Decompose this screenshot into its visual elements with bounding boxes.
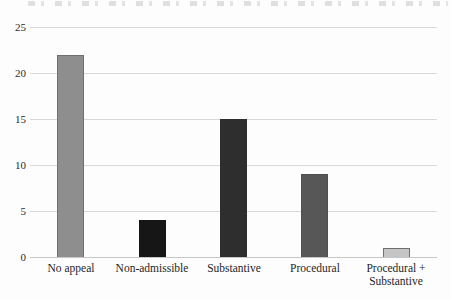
x-category-label: Procedural + Substantive	[353, 262, 439, 288]
x-category-label: Non-admissible	[109, 262, 195, 275]
y-tick-label: 5	[4, 206, 26, 217]
gridline	[30, 27, 437, 28]
x-category-label: Procedural	[272, 262, 358, 275]
bar-chart: 0510152025No appealNon-admissibleSubstan…	[0, 0, 451, 300]
x-category-label: Substantive	[191, 262, 277, 275]
bar-substantive	[220, 119, 247, 257]
y-tick-label: 0	[4, 252, 26, 263]
y-tick-label: 20	[4, 68, 26, 79]
y-tick-label: 15	[4, 114, 26, 125]
x-axis-baseline	[30, 257, 437, 258]
figure-page: 0510152025No appealNon-admissibleSubstan…	[0, 0, 451, 300]
y-tick-label: 10	[4, 160, 26, 171]
y-tick-label: 25	[4, 22, 26, 33]
gridline	[30, 73, 437, 74]
x-category-label: No appeal	[28, 262, 114, 275]
bar-procedural-substantive	[383, 248, 410, 257]
bar-non-admissible	[139, 220, 166, 257]
bar-procedural	[301, 174, 328, 257]
bar-no-appeal	[57, 55, 84, 257]
